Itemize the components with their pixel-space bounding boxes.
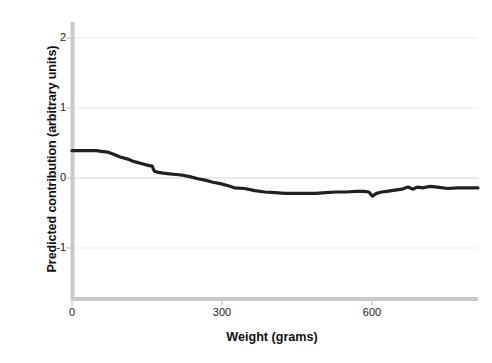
gridlines <box>72 38 478 248</box>
tick-marks <box>66 38 372 306</box>
xtick-label-600: 600 <box>352 306 392 318</box>
x-axis-label: Weight (grams) <box>72 330 472 344</box>
y-axis-label: Predicted contribution (arbitrary units) <box>45 9 59 309</box>
xtick-label-300: 300 <box>202 306 242 318</box>
series-line-predicted-contribution <box>72 151 478 197</box>
chart-figure: 2 1 0 -1 0 300 600 Predicted contributio… <box>0 0 492 363</box>
